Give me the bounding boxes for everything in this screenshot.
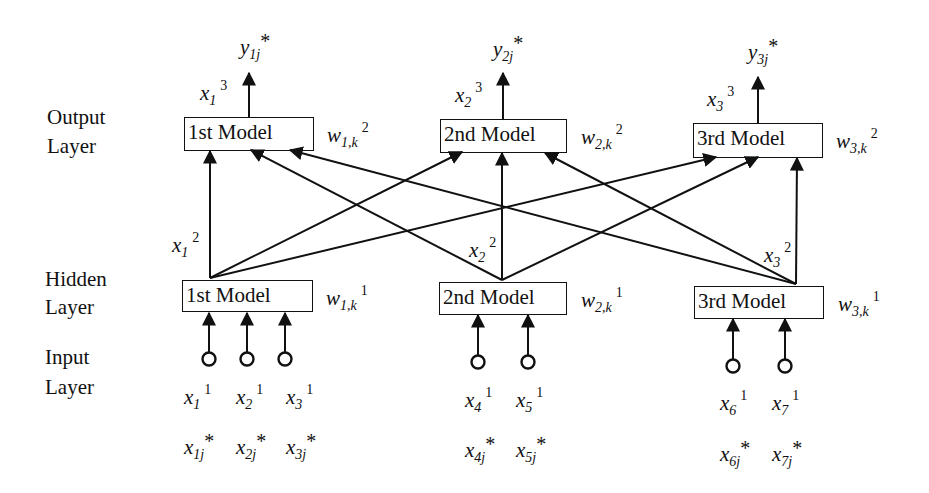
hidden-weight-w2: w2,k1 [581,285,623,316]
input-var-x7: x71 [772,388,799,419]
target-y2: y2j* [493,32,523,65]
hidden-var-x1-2: x12 [172,230,199,261]
output-weight-w1: w1,k2 [327,120,369,151]
input-var-x1: x11 [184,382,211,413]
raw-input-x2j: x2j* [236,430,266,463]
arrow-h3-o1 [290,150,796,284]
arrow-h3-o3 [796,158,797,284]
hidden-model-2: 2nd Model [439,282,567,315]
input-layer-label: InputLayer [45,345,94,399]
arrow-h2-o3 [502,157,758,280]
target-y3: y3j* [748,35,778,68]
arrow-h2-o1 [251,150,502,280]
output-layer-label: OutputLayer [47,105,105,158]
input-node-3 [279,353,292,366]
input-node-1 [203,353,216,366]
input-node-2 [241,353,254,366]
output-weight-w2: w2,k2 [581,122,623,153]
raw-input-x5j: x5j* [516,433,546,466]
output-model-2: 2nd Model [440,119,567,153]
output-weight-w3: w3,k2 [836,126,878,157]
output-var-x2-3: x23 [455,80,482,111]
input-var-x5: x51 [516,385,543,416]
output-var-x1-3: x13 [200,78,227,109]
raw-input-x6j: x6j* [720,437,750,470]
output-var-x3-3: x33 [707,84,734,115]
hidden-var-x2-2: x22 [469,235,496,266]
output-model-1: 1st Model [184,117,314,151]
input-node-5 [522,356,535,369]
hidden-model-1: 1st Model [182,280,313,312]
input-var-x2: x21 [236,382,263,413]
input-var-x4: x41 [465,385,492,416]
hidden-var-x3-2: x32 [764,240,791,271]
hidden-weight-w3: w3,k1 [838,289,880,320]
input-node-4 [472,356,485,369]
raw-input-x7j: x7j* [772,437,802,470]
hidden-model-3: 3rd Model [694,286,824,319]
hidden-weight-w1: w1,k1 [326,283,368,314]
target-y1: y1j* [240,30,270,63]
hidden-layer-label: HiddenLayer [45,267,107,319]
input-var-x3: x31 [286,382,313,413]
raw-input-x4j: x4j* [465,433,495,466]
raw-input-x1j: x1j* [184,430,214,463]
arrow-h1-o2 [210,152,462,278]
input-node-7 [779,360,792,373]
raw-input-x3j: x3j* [286,430,316,463]
input-node-6 [727,360,740,373]
input-var-x6: x61 [720,388,747,419]
arrow-h3-o2 [545,153,796,284]
output-model-3: 3rd Model [693,123,823,158]
